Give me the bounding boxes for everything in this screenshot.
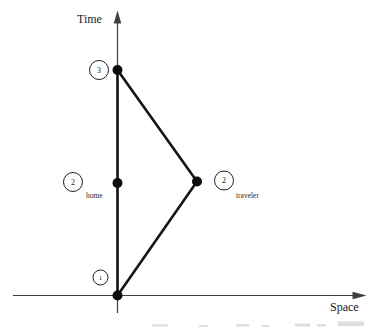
event-number-3: 3 [97,66,101,75]
diagram-background [0,0,378,328]
space-axis-label: Space [330,300,359,314]
traveler-sublabel: traveler [236,191,259,200]
spacetime-diagram: Time Space 3 2 home 2 traveler 1 [0,0,378,328]
diagram-canvas: Time Space 3 2 home 2 traveler 1 [0,0,378,328]
event-dot-home-midpoint [113,178,123,188]
event-number-2-home: 2 [71,178,75,187]
time-axis-label: Time [77,12,102,26]
event-dot-departure [113,291,123,301]
event-number-1: 1 [99,274,103,282]
event-dot-reunion [113,65,123,75]
event-number-2-traveler: 2 [222,176,226,185]
event-dot-traveler-turnaround [192,177,202,187]
home-sublabel: home [86,191,103,200]
